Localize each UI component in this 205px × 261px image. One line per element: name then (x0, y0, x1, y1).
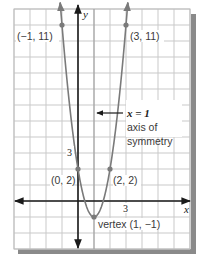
parabola-graph: (−1, 11) (3, 11) (0, 2) (2, 2) vertex (1… (0, 0, 205, 261)
point-label-3-11: (3, 11) (130, 30, 160, 42)
x-axis-label: x (183, 203, 189, 215)
axis-of-symmetry-equation: x = 1 (126, 107, 150, 119)
y-axis-label: y (82, 8, 88, 20)
point-label-neg1-11: (−1, 11) (17, 30, 53, 42)
axis-of-symmetry-note-line2: symmetry (127, 135, 173, 147)
point-label-0-2: (0, 2) (51, 174, 76, 186)
data-point (75, 166, 80, 171)
data-point (123, 22, 128, 27)
axis-of-symmetry-note-line1: axis of (127, 121, 157, 133)
y-tick-label-3: 3 (67, 147, 72, 158)
vertex-label: vertex (1, −1) (98, 218, 160, 230)
data-point (91, 214, 96, 219)
x-tick-label-3: 3 (123, 203, 128, 214)
data-point (59, 22, 64, 27)
data-point (107, 166, 112, 171)
point-label-2-2: (2, 2) (113, 174, 138, 186)
